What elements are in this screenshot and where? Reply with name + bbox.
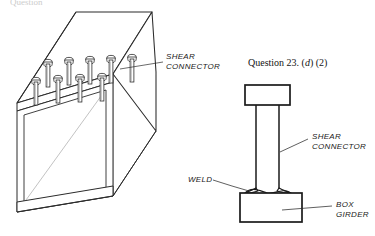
label-box-girder-line1: BOX [336, 200, 354, 210]
label-box-girder-line2: GIRDER [336, 210, 369, 220]
question-caption-prefix: Question 23. ( [248, 57, 305, 68]
box-girder-flange-block [240, 193, 302, 222]
cropped-title-fragment: Question [10, 0, 70, 7]
bottom-receding-edge [113, 131, 156, 196]
label-shear-connector-left-line2: CONNECTOR [166, 62, 220, 72]
diagram-vector-layer [0, 0, 375, 236]
label-weld: WELD [188, 175, 212, 185]
stud-detail-elevation-view [213, 85, 332, 222]
label-shear-connector-right-line1: SHEAR [312, 132, 341, 142]
stud-head [245, 85, 290, 105]
label-shear-connector-left-line1: SHEAR [166, 52, 195, 62]
leader-line-shear-connector-right [280, 139, 308, 152]
leader-line-weld [213, 180, 249, 191]
figure-canvas: Question SHEAR CONNECTOR Question 23. (d… [0, 0, 375, 236]
question-caption: Question 23. (d) (2) [248, 57, 327, 68]
label-shear-connector-right-line2: CONNECTOR [312, 142, 366, 152]
isometric-box-girder-view [17, 12, 163, 212]
question-caption-suffix: ) (2) [310, 57, 328, 68]
